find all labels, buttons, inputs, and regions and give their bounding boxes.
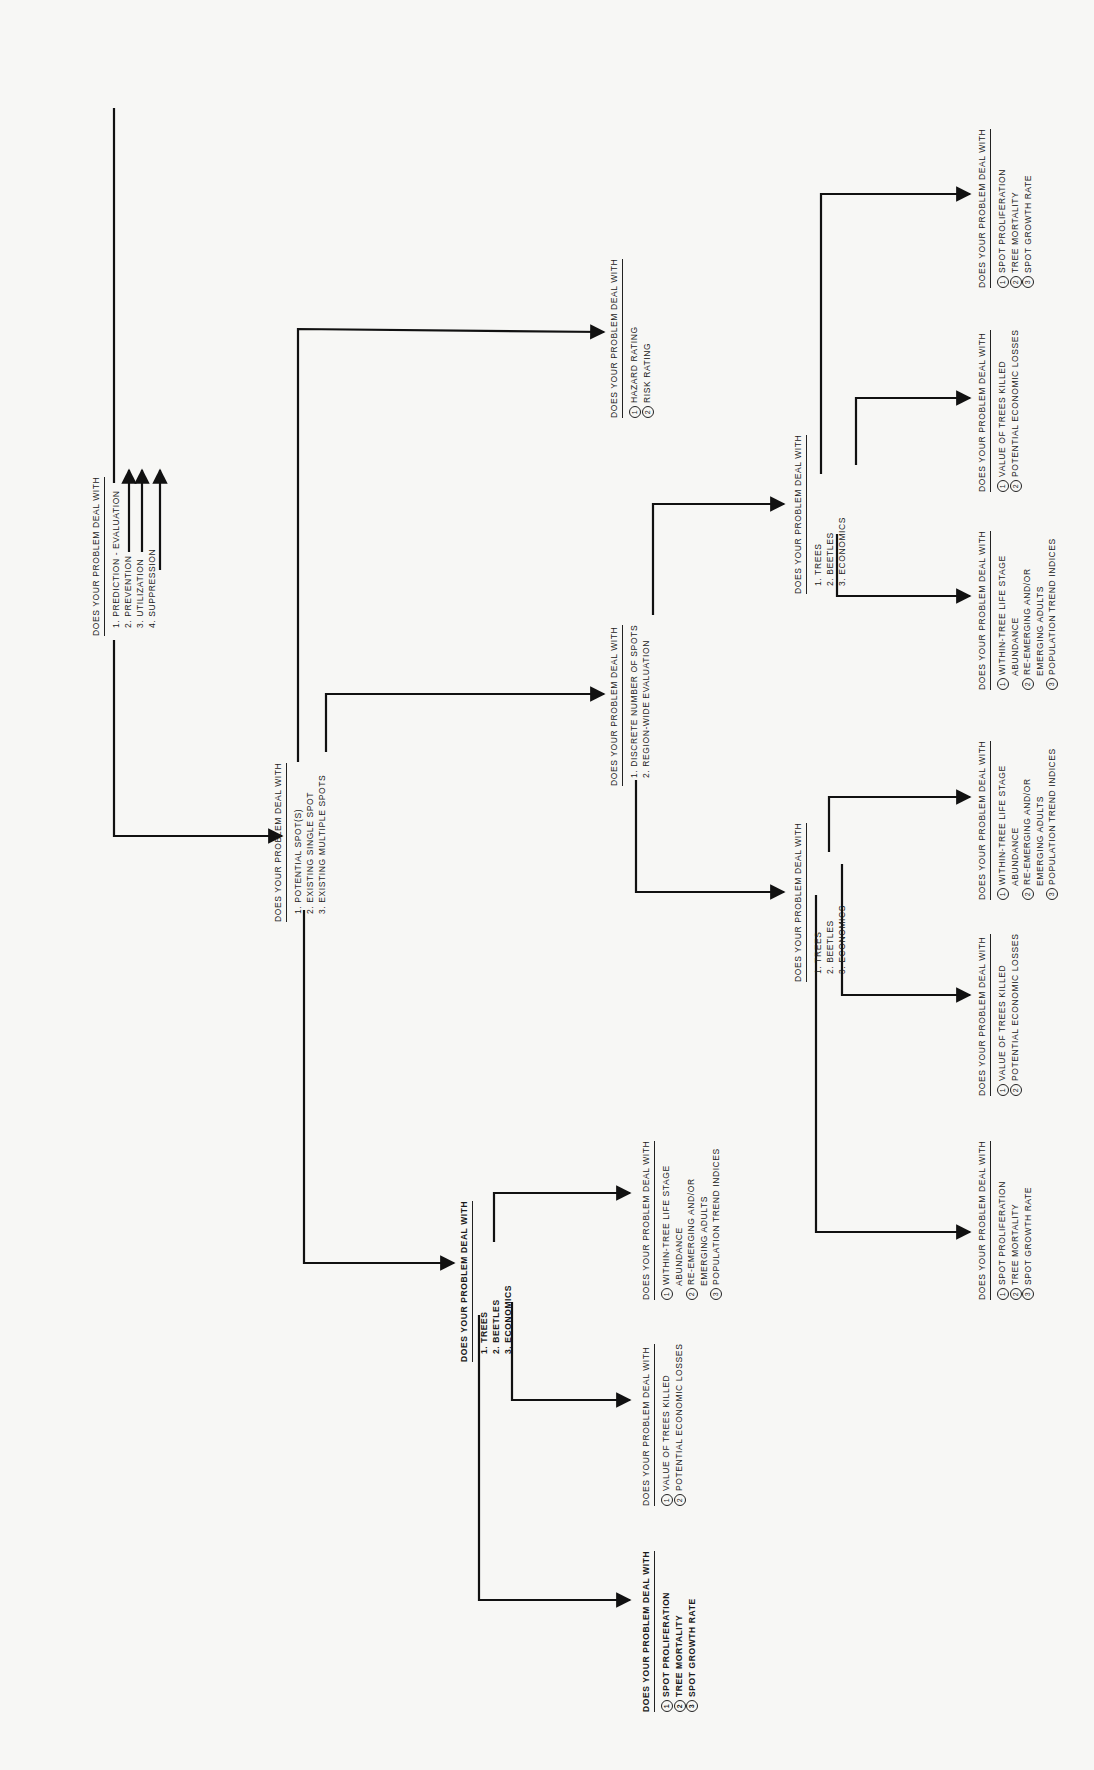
leaf-economics-region: DOES YOUR PROBLEM DEAL WITH 1VALUE OF TR… (976, 330, 1022, 492)
option-potential-economic-losses: 2POTENTIAL ECONOMIC LOSSES (673, 1344, 686, 1506)
leaf-trees-region: DOES YOUR PROBLEM DEAL WITH 1SPOT PROLIF… (976, 129, 1034, 288)
node-question: DOES YOUR PROBLEM DEAL WITH (458, 1201, 473, 1362)
option-prevention: 2. PREVENTION (122, 477, 134, 636)
option-region-wide: 2. REGION-WIDE EVALUATION (640, 625, 652, 786)
option-utilization: 3. UTILIZATION (134, 477, 146, 636)
root-question-node: DOES YOUR PROBLEM DEAL WITH 1. PREDICTIO… (90, 477, 158, 636)
circled-number-icon: 1 (997, 1084, 1009, 1096)
node-question: DOES YOUR PROBLEM DEAL WITH (976, 934, 991, 1096)
leaf-economics-single: DOES YOUR PROBLEM DEAL WITH 1VALUE OF TR… (640, 1344, 686, 1506)
circled-number-icon: 2 (1010, 276, 1022, 288)
option-re-emerging-adults: 2RE-EMERGING AND/OR (1021, 741, 1034, 900)
option-existing-multiple-spots: 3. EXISTING MULTIPLE SPOTS (316, 763, 328, 922)
option-beetles: 2. BEETLES (824, 823, 836, 982)
circled-number-icon: 1 (661, 1700, 673, 1712)
option-trees: 1. TREES (478, 1201, 490, 1362)
option-trees: 1. TREES (812, 435, 824, 594)
option-beetles: 2. BEETLES (824, 435, 836, 594)
circled-number-icon: 3 (1046, 888, 1058, 900)
spots-question-node: DOES YOUR PROBLEM DEAL WITH 1. POTENTIAL… (272, 763, 328, 922)
circled-number-icon: 1 (661, 1288, 673, 1300)
circled-number-icon: 1 (997, 276, 1009, 288)
node-question: DOES YOUR PROBLEM DEAL WITH (976, 741, 991, 900)
circled-number-icon: 2 (1010, 1084, 1022, 1096)
circled-number-icon: 2 (686, 1288, 698, 1300)
option-spot-proliferation: 1SPOT PROLIFERATION (996, 1141, 1009, 1300)
option-discrete-number: 1. DISCRETE NUMBER OF SPOTS (628, 625, 640, 786)
option-spot-growth-rate: 3SPOT GROWTH RATE (686, 1551, 699, 1712)
circled-number-icon: 3 (710, 1288, 722, 1300)
circled-number-icon: 1 (661, 1494, 673, 1506)
option-existing-single-spot: 2. EXISTING SINGLE SPOT (304, 763, 316, 922)
leaf-beetles-discrete: DOES YOUR PROBLEM DEAL WITH 1WITHIN-TREE… (976, 741, 1058, 900)
node-question: DOES YOUR PROBLEM DEAL WITH (792, 823, 807, 982)
single-trees-beetles-economics-node: DOES YOUR PROBLEM DEAL WITH 1. TREES 2. … (458, 1201, 514, 1362)
option-prediction-evaluation: 1. PREDICTION - EVALUATION (110, 477, 122, 636)
option-value-trees-killed: 1VALUE OF TREES KILLED (996, 330, 1009, 492)
option-subtext: EMERGING ADULTS (1034, 531, 1046, 690)
option-economics: 3. ECONOMICS (836, 435, 848, 594)
option-risk-rating: 2RISK RATING (641, 259, 654, 418)
option-population-trend-indices: 3POPULATION TREND INDICES (710, 1141, 723, 1300)
node-question: DOES YOUR PROBLEM DEAL WITH (976, 1141, 991, 1300)
option-suppression: 4. SUPPRESSION (146, 477, 158, 636)
leaf-trees-single: DOES YOUR PROBLEM DEAL WITH 1SPOT PROLIF… (640, 1551, 698, 1712)
option-potential-spots: 1. POTENTIAL SPOT(S) (292, 763, 304, 922)
circled-number-icon: 2 (674, 1700, 686, 1712)
option-tree-mortality: 2TREE MORTALITY (673, 1551, 686, 1712)
option-spot-proliferation: 1SPOT PROLIFERATION (996, 129, 1009, 288)
option-beetles: 2. BEETLES (490, 1201, 502, 1362)
option-tree-mortality: 2TREE MORTALITY (1009, 1141, 1022, 1300)
circled-number-icon: 2 (1010, 1288, 1022, 1300)
node-question: DOES YOUR PROBLEM DEAL WITH (640, 1344, 655, 1506)
option-spot-proliferation: 1SPOT PROLIFERATION (660, 1551, 673, 1712)
rating-question-node: DOES YOUR PROBLEM DEAL WITH 1HAZARD RATI… (608, 259, 654, 418)
option-economics: 3. ECONOMICS (836, 823, 848, 982)
option-hazard-rating: 1HAZARD RATING (628, 259, 641, 418)
discrete-trees-beetles-economics-node: DOES YOUR PROBLEM DEAL WITH 1. TREES 2. … (792, 823, 848, 982)
circled-number-icon: 3 (686, 1700, 698, 1712)
leaf-beetles-region: DOES YOUR PROBLEM DEAL WITH 1WITHIN-TREE… (976, 531, 1058, 690)
circled-number-icon: 2 (674, 1494, 686, 1506)
circled-number-icon: 1 (997, 480, 1009, 492)
option-subtext: ABUNDANCE (1009, 741, 1021, 900)
node-question: DOES YOUR PROBLEM DEAL WITH (976, 330, 991, 492)
option-population-trend-indices: 3POPULATION TREND INDICES (1046, 741, 1059, 900)
node-question: DOES YOUR PROBLEM DEAL WITH (640, 1551, 655, 1712)
circled-number-icon: 1 (997, 888, 1009, 900)
circled-number-icon: 2 (1022, 678, 1034, 690)
option-re-emerging-adults: 2RE-EMERGING AND/OR (1021, 531, 1034, 690)
option-value-trees-killed: 1VALUE OF TREES KILLED (996, 934, 1009, 1096)
option-trees: 1. TREES (812, 823, 824, 982)
circled-number-icon: 2 (1010, 480, 1022, 492)
circled-number-icon: 1 (997, 1288, 1009, 1300)
circled-number-icon: 3 (1022, 1288, 1034, 1300)
option-within-tree-life-stage: 1WITHIN-TREE LIFE STAGE (996, 531, 1009, 690)
option-spot-growth-rate: 3SPOT GROWTH RATE (1022, 129, 1035, 288)
node-question: DOES YOUR PROBLEM DEAL WITH (640, 1141, 655, 1300)
option-value-trees-killed: 1VALUE OF TREES KILLED (660, 1344, 673, 1506)
option-subtext: EMERGING ADULTS (1034, 741, 1046, 900)
region-trees-beetles-economics-node: DOES YOUR PROBLEM DEAL WITH 1. TREES 2. … (792, 435, 848, 594)
option-subtext: ABUNDANCE (673, 1141, 685, 1300)
multiple-spots-question-node: DOES YOUR PROBLEM DEAL WITH 1. DISCRETE … (608, 625, 652, 786)
option-tree-mortality: 2TREE MORTALITY (1009, 129, 1022, 288)
option-within-tree-life-stage: 1WITHIN-TREE LIFE STAGE (660, 1141, 673, 1300)
circled-number-icon: 2 (642, 406, 654, 418)
option-potential-economic-losses: 2POTENTIAL ECONOMIC LOSSES (1009, 330, 1022, 492)
option-spot-growth-rate: 3SPOT GROWTH RATE (1022, 1141, 1035, 1300)
leaf-trees-discrete: DOES YOUR PROBLEM DEAL WITH 1SPOT PROLIF… (976, 1141, 1034, 1300)
option-subtext: EMERGING ADULTS (698, 1141, 710, 1300)
option-re-emerging-adults: 2RE-EMERGING AND/OR (685, 1141, 698, 1300)
circled-number-icon: 1 (629, 406, 641, 418)
node-question: DOES YOUR PROBLEM DEAL WITH (608, 625, 623, 786)
option-population-trend-indices: 3POPULATION TREND INDICES (1046, 531, 1059, 690)
option-potential-economic-losses: 2POTENTIAL ECONOMIC LOSSES (1009, 934, 1022, 1096)
option-within-tree-life-stage: 1WITHIN-TREE LIFE STAGE (996, 741, 1009, 900)
circled-number-icon: 3 (1022, 276, 1034, 288)
node-question: DOES YOUR PROBLEM DEAL WITH (792, 435, 807, 594)
node-question: DOES YOUR PROBLEM DEAL WITH (90, 477, 105, 636)
node-question: DOES YOUR PROBLEM DEAL WITH (976, 531, 991, 690)
leaf-economics-discrete: DOES YOUR PROBLEM DEAL WITH 1VALUE OF TR… (976, 934, 1022, 1096)
leaf-beetles-single: DOES YOUR PROBLEM DEAL WITH 1WITHIN-TREE… (640, 1141, 722, 1300)
